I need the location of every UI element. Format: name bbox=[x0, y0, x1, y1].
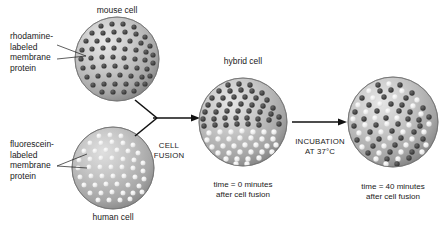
mouse-cell-title: mouse cell bbox=[87, 5, 147, 15]
cell-fusion-label: CELL FUSION bbox=[141, 141, 197, 160]
cell-fusion-diagram: mouse cell bbox=[0, 0, 448, 233]
hybrid-cell-graphic bbox=[198, 77, 288, 167]
incubated-cell bbox=[347, 76, 439, 168]
rhodamine-label: rhodamine- labeled membrane protein bbox=[10, 31, 53, 73]
rhodamine-leader-lines bbox=[56, 40, 90, 70]
incubated-cell-caption: time = 40 minutes after cell fusion bbox=[345, 182, 441, 202]
fluorescein-label: fluorescein- labeled membrane protein bbox=[10, 139, 54, 181]
cell-fusion-arrow bbox=[133, 98, 201, 140]
incubation-arrow bbox=[292, 116, 348, 128]
incubation-label: INCUBATION AT 37°C bbox=[283, 137, 357, 156]
fluorescein-leader-lines bbox=[56, 146, 90, 178]
hybrid-cell-caption: time = 0 minutes after cell fusion bbox=[198, 180, 288, 200]
incubated-cell-graphic bbox=[347, 76, 439, 168]
human-cell-title: human cell bbox=[83, 212, 143, 222]
hybrid-cell bbox=[198, 77, 288, 167]
hybrid-cell-title: hybrid cell bbox=[213, 56, 273, 66]
